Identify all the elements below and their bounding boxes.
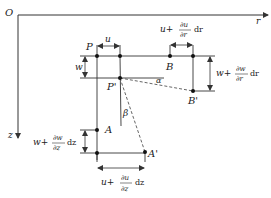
svg-text:u+: u+ — [160, 24, 173, 34]
deformation-diagram: O r z — [0, 0, 271, 198]
label-w-plus-dwdz-dz: w+ ∂w ∂z dz — [33, 134, 76, 152]
svg-text:dz: dz — [135, 178, 144, 187]
svg-text:dz: dz — [67, 138, 76, 147]
svg-text:u+: u+ — [101, 177, 114, 187]
label-b: B — [165, 61, 173, 72]
deformed-edges — [120, 78, 193, 152]
svg-text:∂r: ∂r — [236, 75, 244, 83]
svg-text:∂u: ∂u — [180, 21, 189, 29]
svg-text:dr: dr — [250, 69, 259, 78]
label-b-prime: B' — [187, 95, 198, 106]
svg-text:∂w: ∂w — [236, 65, 246, 73]
z-axis-label: z — [7, 130, 13, 140]
svg-text:w+: w+ — [33, 137, 48, 147]
point-b-prime — [191, 89, 195, 93]
label-p-prime: P' — [106, 81, 116, 92]
label-beta: β — [122, 108, 128, 118]
point-b — [168, 54, 172, 58]
point-p — [95, 54, 99, 58]
svg-text:∂z: ∂z — [53, 144, 61, 152]
point-b-shift — [191, 54, 195, 58]
label-u-plus-dudz-dz: u+ ∂u ∂z dz — [101, 174, 144, 193]
svg-text:∂u: ∂u — [121, 174, 130, 182]
label-u-plus-dudr-dr: u+ ∂u ∂r dr — [160, 21, 203, 39]
svg-text:∂z: ∂z — [121, 185, 129, 193]
point-a-shift — [95, 151, 99, 155]
label-u: u — [105, 34, 111, 44]
label-w-plus-dwdr-dr: w+ ∂w ∂r dr — [216, 65, 259, 83]
svg-text:∂w: ∂w — [53, 134, 63, 142]
point-p-prime — [118, 76, 122, 80]
label-p: P — [85, 41, 93, 52]
label-a-prime: A' — [147, 148, 158, 159]
r-axis-label: r — [256, 16, 261, 26]
point-a-prime — [143, 150, 147, 154]
svg-text:w+: w+ — [216, 68, 231, 78]
svg-text:dr: dr — [194, 25, 203, 34]
origin-label: O — [5, 7, 13, 18]
label-w: w — [75, 62, 83, 72]
label-a: A — [104, 124, 112, 135]
point-p-shift — [118, 54, 122, 58]
points — [95, 54, 195, 155]
point-a — [95, 128, 99, 132]
svg-text:∂r: ∂r — [180, 31, 188, 39]
label-alpha: α — [156, 76, 162, 85]
